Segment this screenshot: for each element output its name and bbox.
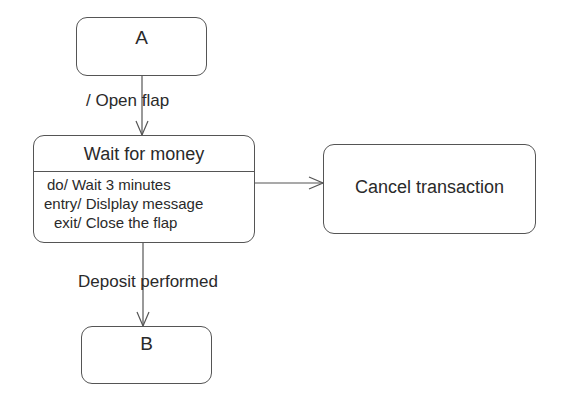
state-wait-name: Wait for money	[34, 144, 254, 165]
state-b-name: B	[82, 333, 211, 355]
activity-entry: entry/ Dislplay message	[44, 195, 203, 212]
state-b[interactable]: B	[81, 326, 212, 384]
activity-do: do/ Wait 3 minutes	[47, 176, 171, 193]
state-cancel-transaction[interactable]: Cancel transaction	[323, 144, 536, 234]
transition-deposit-label: Deposit performed	[78, 272, 218, 292]
state-a-name: A	[77, 27, 206, 49]
state-cancel-name: Cancel transaction	[324, 177, 535, 198]
activity-exit: exit/ Close the flap	[54, 214, 177, 231]
state-wait-for-money[interactable]: Wait for money do/ Wait 3 minutes entry/…	[33, 135, 255, 243]
state-a[interactable]: A	[76, 17, 207, 76]
transition-open-flap-label: / Open flap	[86, 91, 169, 111]
state-compartment-divider	[34, 171, 254, 172]
